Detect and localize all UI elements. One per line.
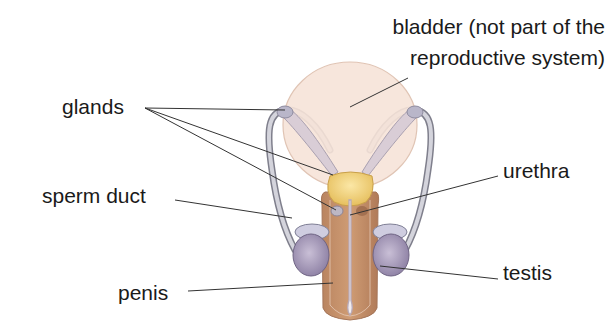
reproductive-system-diagram: bladder (not part of the reproductive sy… [0, 0, 613, 328]
glands-label: glands [62, 96, 124, 117]
bladder-label-line2: reproductive system) [385, 47, 605, 68]
penis-label: penis [118, 282, 168, 303]
urethra [348, 200, 353, 315]
sperm-duct-label: sperm duct [42, 185, 146, 206]
bulbourethral-gland [331, 206, 343, 216]
urethra-label: urethra [503, 160, 570, 181]
testis-left [293, 224, 329, 276]
bladder-label-line1: bladder (not part of the [385, 16, 605, 37]
testis-label: testis [503, 262, 552, 283]
